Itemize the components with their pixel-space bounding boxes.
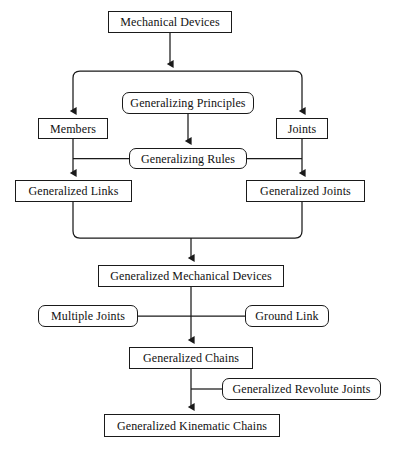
node-ground-link[interactable]: Ground Link (245, 305, 329, 327)
node-generalized-mechanical-devices[interactable]: Generalized Mechanical Devices (98, 265, 284, 287)
node-generalized-revolute-joints[interactable]: Generalized Revolute Joints (222, 378, 381, 400)
node-label: Members (50, 123, 96, 135)
node-label: Generalized Joints (260, 185, 351, 197)
edge-generalized-joints-to-merge (191, 202, 302, 238)
node-label: Ground Link (255, 310, 318, 322)
node-generalized-kinematic-chains[interactable]: Generalized Kinematic Chains (104, 414, 280, 437)
flowchart-diagram: Mechanical Devices Generalizing Principl… (0, 0, 395, 449)
node-generalizing-rules[interactable]: Generalizing Rules (129, 148, 247, 169)
node-multiple-joints[interactable]: Multiple Joints (38, 305, 138, 327)
node-label: Generalizing Rules (141, 153, 235, 165)
node-label: Mechanical Devices (120, 16, 219, 28)
node-label: Generalized Kinematic Chains (117, 420, 267, 432)
node-label: Generalized Revolute Joints (233, 383, 371, 395)
node-generalized-joints[interactable]: Generalized Joints (246, 180, 365, 202)
node-label: Joints (288, 123, 317, 135)
node-generalizing-principles[interactable]: Generalizing Principles (122, 92, 254, 114)
node-generalized-links[interactable]: Generalized Links (15, 180, 132, 202)
node-label: Generalized Mechanical Devices (110, 270, 272, 282)
node-label: Multiple Joints (51, 310, 125, 322)
node-label: Generalized Chains (143, 352, 239, 364)
edge-generalized-links-to-merge (73, 202, 191, 238)
node-generalized-chains[interactable]: Generalized Chains (129, 347, 253, 369)
node-mechanical-devices[interactable]: Mechanical Devices (108, 11, 232, 33)
node-members[interactable]: Members (38, 118, 108, 139)
node-joints[interactable]: Joints (276, 118, 328, 139)
node-label: Generalizing Principles (130, 97, 245, 109)
node-label: Generalized Links (29, 185, 119, 197)
